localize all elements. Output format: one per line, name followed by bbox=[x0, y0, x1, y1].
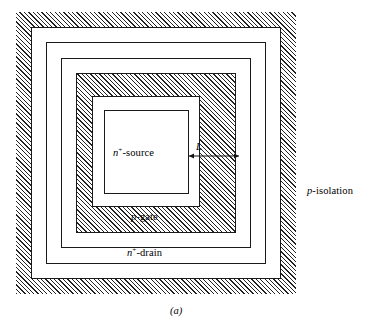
label-n-source-suffix: -source bbox=[122, 147, 154, 158]
label-n-drain: n+-drain bbox=[127, 248, 162, 259]
label-p-isolation-suffix: -isolation bbox=[312, 185, 353, 196]
label-n-drain-suffix: -drain bbox=[136, 247, 162, 258]
device-layout-figure: n+-source p-gate n+-drain p-isolation L … bbox=[0, 0, 376, 331]
label-p-gate: p-gate bbox=[131, 212, 158, 223]
dimension-arrow-L bbox=[186, 148, 242, 164]
label-p-gate-suffix: -gate bbox=[136, 211, 158, 222]
label-n-source: n+-source bbox=[113, 148, 154, 159]
figure-caption: (a) bbox=[170, 305, 182, 316]
label-p-isolation: p-isolation bbox=[307, 186, 353, 197]
